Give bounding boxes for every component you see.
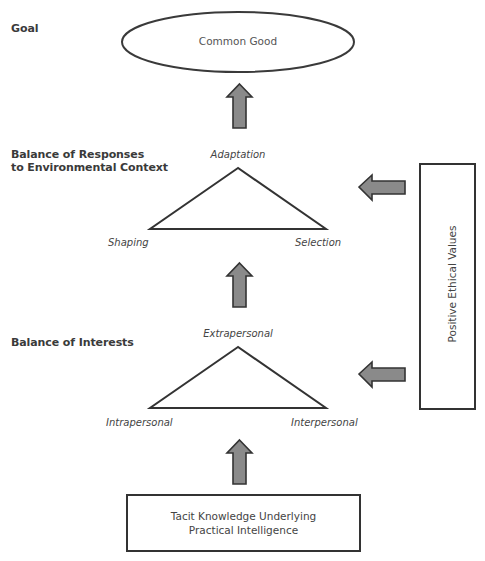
responses-triangle — [150, 168, 326, 229]
foundation-label-line1: Tacit Knowledge Underlying — [127, 509, 360, 523]
left-arrow-icon — [359, 175, 405, 200]
interests-heading: Balance of Interests — [11, 336, 134, 349]
responses-heading-line1: Balance of Responses — [11, 148, 168, 161]
up-arrow-icon — [227, 263, 252, 307]
foundation-label: Tacit Knowledge Underlying Practical Int… — [127, 509, 360, 537]
shaping-label: Shaping — [108, 237, 149, 248]
adaptation-label: Adaptation — [188, 149, 288, 160]
foundation-label-line2: Practical Intelligence — [127, 523, 360, 537]
responses-heading-line2: to Environmental Context — [11, 161, 168, 174]
ethical-values-label: Positive Ethical Values — [445, 219, 459, 349]
responses-heading: Balance of Responses to Environmental Co… — [11, 148, 168, 174]
interpersonal-label: Interpersonal — [291, 417, 358, 428]
extrapersonal-label: Extrapersonal — [178, 328, 298, 339]
diagram-canvas — [0, 0, 485, 561]
intrapersonal-label: Intrapersonal — [106, 417, 173, 428]
interests-triangle — [150, 347, 326, 408]
up-arrow-icon — [227, 440, 252, 484]
selection-label: Selection — [295, 237, 341, 248]
common-good-label: Common Good — [122, 35, 354, 47]
left-arrow-icon — [359, 362, 405, 387]
goal-heading: Goal — [11, 22, 38, 35]
up-arrow-icon — [227, 84, 252, 128]
